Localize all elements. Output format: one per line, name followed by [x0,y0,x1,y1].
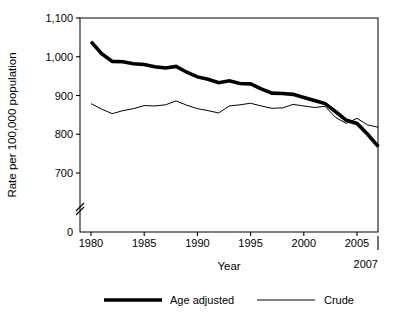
x-axis-tick-label: 1980 [79,237,103,249]
x-axis-tick-label: 2005 [345,237,369,249]
y-axis-tick-label: 900 [55,90,73,102]
series-line-age-adjusted [91,42,378,147]
y-axis-tick-label: 1,100 [45,12,73,24]
legend-label-age-adjusted: Age adjusted [170,294,234,306]
legend-label-crude: Crude [324,294,354,306]
y-axis-tick-label: 700 [55,167,73,179]
x-axis-tick-label: 2000 [292,237,316,249]
chart-legend: Age adjusted Crude [104,294,354,306]
line-chart: 7008009001,0001,100 0 198019851990199520… [0,0,406,316]
x-axis-end-year-label: 2007 [354,258,378,270]
x-axis-title: Year [217,260,240,272]
plot-area-frame [80,18,378,232]
y-axis-tick-labels: 7008009001,0001,100 [45,12,73,179]
x-axis-tick-label: 1985 [132,237,156,249]
y-axis-tick-label: 800 [55,128,73,140]
y-axis-tick-label: 1,000 [45,51,73,63]
x-axis-tick-label: 1995 [238,237,262,249]
x-axis-tick-labels: 198019851990199520002005 [79,237,369,249]
chart-container: 7008009001,0001,100 0 198019851990199520… [0,0,406,316]
y-axis-tick-marks [76,18,80,173]
x-axis-tick-label: 1990 [185,237,209,249]
y-axis-zero-label: 0 [67,226,73,238]
y-axis-title: Rate per 100,000 population [6,52,18,197]
series-line-crude [91,101,378,127]
